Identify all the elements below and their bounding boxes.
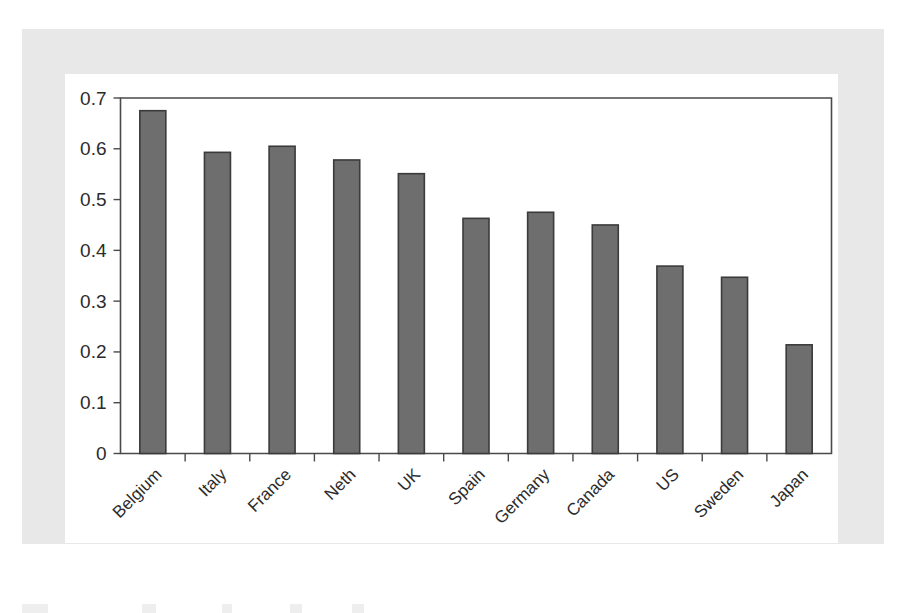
x-tick-label-uk: UK xyxy=(394,464,425,495)
bar-spain xyxy=(463,218,489,453)
bar-neth xyxy=(334,160,360,454)
y-axis-tick-labels: 00.10.20.30.40.50.60.7 xyxy=(80,88,107,465)
x-tick-label-france: France xyxy=(244,465,295,516)
bar-canada xyxy=(592,225,618,454)
bar-germany xyxy=(528,212,554,453)
y-axis-ticks xyxy=(114,98,121,454)
bar-series xyxy=(140,111,812,454)
bar-france xyxy=(269,146,295,453)
y-tick-label: 0 xyxy=(96,443,107,464)
bar-us xyxy=(657,266,683,453)
x-tick-label-germany: Germany xyxy=(491,465,554,528)
x-tick-label-sweden: Sweden xyxy=(690,465,747,522)
x-tick-label-canada: Canada xyxy=(563,465,619,521)
x-tick-label-belgium: Belgium xyxy=(109,465,166,522)
y-tick-label: 0.2 xyxy=(80,341,106,362)
x-tick-label-neth: Neth xyxy=(321,465,360,504)
y-tick-label: 0.7 xyxy=(80,88,106,109)
bar-sweden xyxy=(722,277,748,453)
bar-uk xyxy=(398,174,424,454)
x-tick-label-japan: Japan xyxy=(766,465,812,511)
x-tick-label-us: US xyxy=(653,465,683,495)
y-tick-label: 0.5 xyxy=(80,189,106,210)
bar-belgium xyxy=(140,111,166,454)
bar-chart: 00.10.20.30.40.50.60.7 BelgiumItalyFranc… xyxy=(0,0,917,613)
x-tick-label-spain: Spain xyxy=(445,465,489,509)
x-axis-tick-labels: BelgiumItalyFranceNethUKSpainGermanyCana… xyxy=(109,464,812,527)
x-axis-ticks xyxy=(185,454,767,462)
y-tick-label: 0.1 xyxy=(80,392,106,413)
page-canvas: 00.10.20.30.40.50.60.7 BelgiumItalyFranc… xyxy=(0,0,917,613)
y-tick-label: 0.3 xyxy=(80,291,106,312)
x-tick-label-italy: Italy xyxy=(195,465,231,501)
bar-italy xyxy=(204,152,230,453)
bar-japan xyxy=(786,345,812,454)
y-tick-label: 0.6 xyxy=(80,138,106,159)
y-tick-label: 0.4 xyxy=(80,240,107,261)
